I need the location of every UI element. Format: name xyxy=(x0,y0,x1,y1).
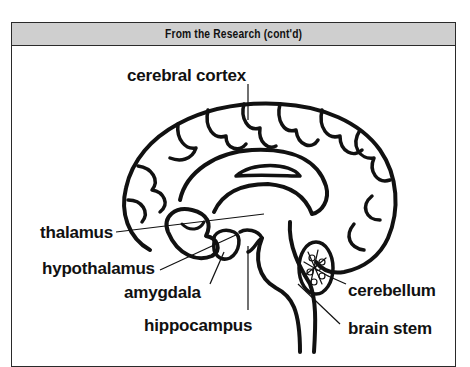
corpus-callosum xyxy=(180,150,327,214)
label-brain-stem: brain stem xyxy=(348,319,432,339)
label-thalamus: thalamus xyxy=(40,223,113,243)
label-hippocampus: hippocampus xyxy=(144,316,252,336)
label-amygdala: amygdala xyxy=(124,283,201,303)
label-hypothalamus: hypothalamus xyxy=(42,259,155,279)
label-cerebral-cortex: cerebral cortex xyxy=(127,66,246,86)
brain-stem-leader xyxy=(298,284,340,324)
label-cerebellum: cerebellum xyxy=(348,281,436,301)
